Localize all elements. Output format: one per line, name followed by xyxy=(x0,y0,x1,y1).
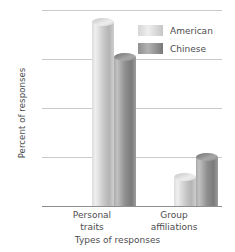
legend-label-chinese: Chinese xyxy=(170,44,206,54)
x-axis-title: Types of responses xyxy=(0,235,235,245)
legend-swatch-american-icon xyxy=(138,25,163,36)
x-axis-category-line2: affiliations xyxy=(129,222,219,234)
bar-chinese-group-affiliations[interactable] xyxy=(196,153,218,206)
legend-item-american[interactable]: American xyxy=(138,23,213,38)
legend-swatch-chinese-icon xyxy=(138,43,163,54)
bar-american-personal-traits[interactable] xyxy=(92,18,114,206)
bar-cap xyxy=(196,153,218,161)
legend-label-american: American xyxy=(170,26,213,36)
bar-body xyxy=(114,57,136,206)
x-axis-category-line2: traits xyxy=(47,222,137,234)
bar-chinese-personal-traits[interactable] xyxy=(114,53,136,206)
x-axis-category-line1: Personal xyxy=(47,210,137,222)
bar-body xyxy=(196,157,218,206)
bar-body xyxy=(92,22,114,206)
bar-body xyxy=(174,177,196,206)
legend-item-chinese[interactable]: Chinese xyxy=(138,41,213,56)
legend: American Chinese xyxy=(138,23,213,59)
x-axis-category-line1: Group xyxy=(129,210,219,222)
bar-chart: Percent of responses 020406080 American … xyxy=(0,0,235,252)
x-axis-category-group-affiliations: Group affiliations xyxy=(129,210,219,233)
axis-baseline xyxy=(42,206,222,207)
gridline xyxy=(42,10,222,11)
bar-cap xyxy=(114,53,136,61)
bar-american-group-affiliations[interactable] xyxy=(174,173,196,206)
y-axis-title: Percent of responses xyxy=(17,33,27,193)
bar-cap xyxy=(174,173,196,181)
x-axis-category-personal-traits: Personal traits xyxy=(47,210,137,233)
